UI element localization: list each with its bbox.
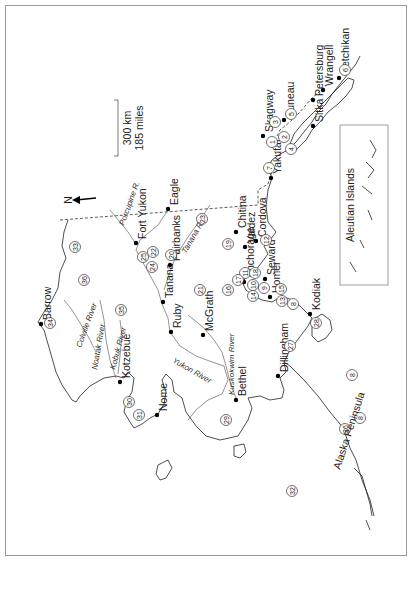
svg-text:22: 22 — [150, 248, 157, 256]
city-marker: Eagle — [166, 178, 180, 211]
region-number: 28 — [311, 318, 322, 329]
region-number: 17 — [233, 275, 244, 286]
svg-text:11: 11 — [242, 269, 249, 276]
svg-text:19: 19 — [225, 240, 232, 248]
svg-text:21: 21 — [197, 286, 204, 294]
nunivak-island — [234, 444, 246, 458]
scale-bar: 300 km 185 miles — [114, 100, 145, 156]
st-lawrence-island — [156, 460, 172, 480]
region-number: 32 — [287, 486, 298, 497]
region-number: 12 — [261, 235, 272, 246]
svg-text:13: 13 — [279, 297, 286, 305]
svg-text:14: 14 — [250, 292, 257, 300]
svg-text:185 miles: 185 miles — [133, 106, 145, 151]
region-number: 13 — [277, 296, 288, 307]
svg-text:3: 3 — [272, 120, 279, 124]
svg-text:Bethel: Bethel — [236, 366, 248, 396]
svg-text:300 km: 300 km — [121, 111, 133, 146]
svg-text:Eagle: Eagle — [168, 178, 180, 205]
svg-text:10: 10 — [250, 281, 257, 289]
region-number: 2 — [279, 132, 290, 143]
svg-text:Cordova: Cordova — [256, 197, 268, 237]
svg-text:29: 29 — [223, 416, 230, 424]
svg-text:28: 28 — [313, 319, 320, 327]
svg-text:8: 8 — [290, 302, 297, 306]
svg-text:32: 32 — [289, 487, 296, 495]
svg-text:9: 9 — [261, 286, 268, 290]
region-number: 15 — [276, 284, 287, 295]
svg-text:18: 18 — [252, 269, 259, 277]
north-arrow: N — [62, 196, 96, 204]
region-number: 8 — [347, 370, 358, 381]
svg-text:4: 4 — [288, 147, 295, 151]
region-number: 24 — [147, 262, 158, 273]
cities-layer: BarrowKotzebueNomeBethelDillinghamMcGrat… — [39, 28, 351, 417]
svg-text:Nome: Nome — [157, 383, 169, 411]
region-number: 36 — [79, 275, 90, 286]
aleutian-inset: Aleutian Islands — [340, 125, 388, 285]
city-marker: Nome — [155, 383, 169, 417]
svg-text:6: 6 — [342, 68, 349, 72]
city-marker: Ruby — [169, 303, 183, 334]
svg-text:35: 35 — [118, 306, 125, 314]
region-number: 30 — [124, 397, 135, 408]
city-marker: Skagway — [261, 89, 275, 139]
svg-text:16: 16 — [225, 286, 232, 294]
svg-text:2: 2 — [281, 135, 288, 139]
alaska-peninsula-label: Alaska Peninsula — [330, 390, 366, 470]
svg-text:15: 15 — [278, 285, 285, 293]
svg-text:24: 24 — [149, 263, 156, 271]
svg-text:27: 27 — [287, 342, 294, 350]
region-number: 1 — [267, 137, 278, 148]
region-number: 19 — [223, 239, 234, 250]
region-number: 5 — [286, 109, 297, 120]
svg-text:Tanana R.: Tanana R. — [180, 219, 206, 255]
region-number: 14 — [248, 291, 259, 302]
region-number: 33 — [70, 242, 81, 253]
svg-text:McGrath: McGrath — [203, 291, 215, 331]
svg-text:7: 7 — [266, 166, 273, 170]
region-number: 7 — [264, 163, 275, 174]
svg-text:Kuskokwim River: Kuskokwim River — [227, 333, 236, 395]
svg-text:30: 30 — [126, 398, 133, 406]
city-marker: Kodiak — [308, 277, 322, 316]
svg-text:25: 25 — [140, 253, 147, 261]
region-number: 21 — [195, 285, 206, 296]
region-number: 4 — [286, 144, 297, 155]
city-marker: McGrath — [201, 291, 215, 338]
region-number: 34 — [45, 318, 56, 329]
svg-text:Ruby: Ruby — [171, 303, 183, 328]
region-number: 16 — [223, 285, 234, 296]
region-number: 3 — [270, 117, 281, 128]
svg-text:33: 33 — [72, 243, 79, 251]
region-number: 27 — [285, 341, 296, 352]
svg-text:Tanana: Tanana — [163, 263, 175, 298]
svg-text:1: 1 — [269, 140, 276, 144]
region-number: 9 — [259, 283, 270, 294]
svg-text:5: 5 — [288, 112, 295, 116]
region-number: 29 — [221, 415, 232, 426]
svg-text:31: 31 — [136, 411, 143, 419]
svg-text:Wrangell: Wrangell — [323, 45, 335, 86]
region-number: 8 — [288, 299, 299, 310]
svg-text:20: 20 — [168, 251, 175, 259]
city-marker: Tanana — [161, 263, 175, 304]
svg-text:Noatak River: Noatak River — [90, 323, 107, 370]
svg-text:36: 36 — [81, 276, 88, 284]
city-marker: Wrangell — [321, 45, 335, 92]
svg-text:8: 8 — [349, 373, 356, 377]
river-labels: Porcupine R. Tanana R. Colville River No… — [74, 180, 236, 395]
region-number: 10 — [248, 280, 259, 291]
svg-text:Kodiak: Kodiak — [310, 277, 322, 310]
svg-text:17: 17 — [235, 276, 242, 284]
svg-text:N: N — [62, 196, 74, 204]
svg-text:Fort Yukon: Fort Yukon — [136, 188, 148, 239]
svg-text:Barrow: Barrow — [41, 286, 53, 320]
alaska-map: N 300 km 185 miles Aleutian Islands Barr… — [0, 0, 417, 591]
region-number: 35 — [116, 305, 127, 316]
region-number: 6 — [340, 65, 351, 76]
region-number: 18 — [250, 268, 261, 279]
svg-text:12: 12 — [263, 236, 270, 244]
region-number: 25 — [138, 252, 149, 263]
svg-text:34: 34 — [47, 319, 54, 327]
